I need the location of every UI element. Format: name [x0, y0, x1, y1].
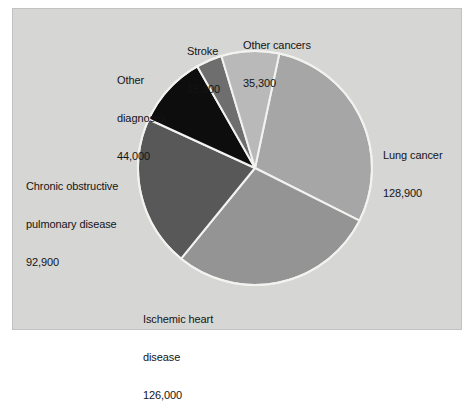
pie-label-copd-line1: Chronic obstructive — [26, 180, 118, 193]
pie-label-other-diagnoses: Other diagnoses 44,000 — [117, 49, 166, 188]
pie-label-stroke-value: 15,900 — [187, 83, 220, 96]
pie-label-copd-line2: pulmonary disease — [26, 218, 118, 231]
pie-label-other-diagnoses-line2: diagnoses — [117, 112, 166, 125]
pie-label-copd-value: 92,900 — [26, 256, 118, 269]
pie-label-stroke: Stroke 15,900 — [187, 20, 220, 121]
pie-label-ischemic-heart-disease-value: 126,000 — [143, 389, 213, 402]
pie-label-other-diagnoses-value: 44,000 — [117, 150, 166, 163]
pie-label-ischemic-heart-disease-line2: disease — [143, 351, 213, 364]
pie-label-ischemic-heart-disease: Ischemic heart disease 126,000 — [143, 288, 213, 405]
pie-label-lung-cancer-value: 128,900 — [383, 187, 442, 200]
pie-label-other-cancers-line1: Other cancers — [243, 39, 311, 52]
pie-label-stroke-line1: Stroke — [187, 45, 220, 58]
pie-label-lung-cancer: Lung cancer 128,900 — [383, 124, 442, 225]
pie-label-other-cancers: Other cancers 35,300 — [243, 14, 311, 115]
pie-label-other-diagnoses-line1: Other — [117, 74, 166, 87]
pie-label-lung-cancer-line1: Lung cancer — [383, 149, 442, 162]
pie-label-ischemic-heart-disease-line1: Ischemic heart — [143, 313, 213, 326]
pie-label-other-cancers-value: 35,300 — [243, 77, 311, 90]
pie-label-copd: Chronic obstructive pulmonary disease 92… — [26, 155, 118, 294]
